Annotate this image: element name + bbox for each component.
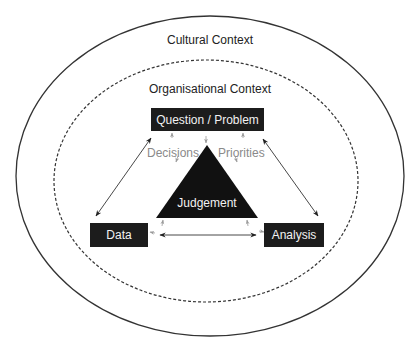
priorities-label: Priorities (218, 146, 265, 160)
data-box: Data (90, 223, 148, 247)
analysis-label: Analysis (272, 228, 317, 242)
diagram-canvas (0, 0, 420, 352)
cultural-context-label: Cultural Context (167, 33, 253, 47)
judgement-label: Judgement (177, 196, 236, 210)
analysis-box: Analysis (264, 223, 324, 247)
data-left-arrow-icon (150, 232, 155, 233)
decisions-label: Decisions (147, 146, 199, 160)
organisational-context-label: Organisational Context (149, 82, 271, 96)
question-analysis-arrow (263, 139, 318, 216)
base-right-up-arrow-icon (247, 220, 248, 226)
data-label: Data (106, 228, 131, 242)
question-problem-label: Question / Problem (156, 113, 259, 127)
question-problem-box: Question / Problem (151, 108, 264, 131)
question-data-arrow (96, 138, 151, 216)
base-left-up-arrow-icon (162, 220, 163, 226)
